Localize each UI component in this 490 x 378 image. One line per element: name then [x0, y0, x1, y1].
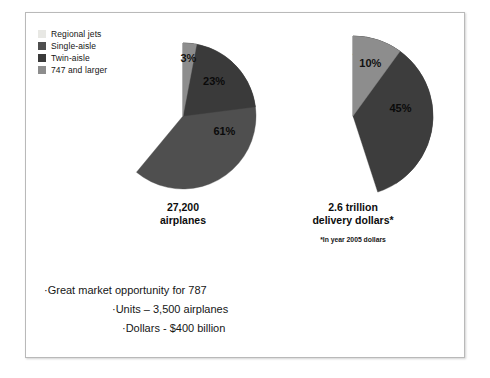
legend-swatch-single-aisle — [38, 42, 46, 50]
pie-chart-delivery-dollars: 4%41%45%10% — [271, 34, 435, 198]
legend-label-twin-aisle: Twin-aisle — [51, 53, 90, 63]
legend-item-regional-jets: Regional jets — [38, 28, 146, 39]
bullet-list: ·Great market opportunity for 787 ·Units… — [44, 281, 444, 338]
bullet-market-opportunity: ·Great market opportunity for 787 — [44, 281, 444, 300]
legend-label-single-aisle: Single-aisle — [51, 41, 96, 51]
pie-chart-delivery-dollars-svg: 4%41%45%10% — [271, 34, 435, 198]
pie-chart-airplanes-svg: 13%61%23%3% — [108, 41, 258, 191]
pie-slice-label: 45% — [389, 102, 411, 114]
bullet-dollars: ·Dollars - $400 billion — [122, 319, 444, 338]
pie-footnote-dollars-year: *In year 2005 dollars — [266, 236, 440, 243]
legend-swatch-twin-aisle — [38, 54, 46, 62]
pie-slice-label: 10% — [359, 57, 381, 69]
bullet-units: ·Units – 3,500 airplanes — [112, 300, 444, 319]
pie-slice-label: 61% — [213, 125, 235, 137]
pie-caption-delivery-dollars: 2.6 trillion delivery dollars* — [266, 201, 440, 226]
legend-label-747-and-larger: 747 and larger — [51, 65, 107, 75]
pie-slice-label: 3% — [181, 52, 197, 64]
pie-slice-label: 23% — [203, 75, 225, 87]
pie-caption-airplanes: 27,200 airplanes — [98, 201, 268, 226]
pie-chart-airplanes: 13%61%23%3% — [108, 41, 258, 191]
slide-frame: Regional jets Single-aisle Twin-aisle 74… — [25, 12, 465, 358]
legend-label-regional-jets: Regional jets — [51, 29, 101, 39]
legend-swatch-regional-jets — [38, 30, 46, 38]
legend-swatch-747-and-larger — [38, 66, 46, 74]
